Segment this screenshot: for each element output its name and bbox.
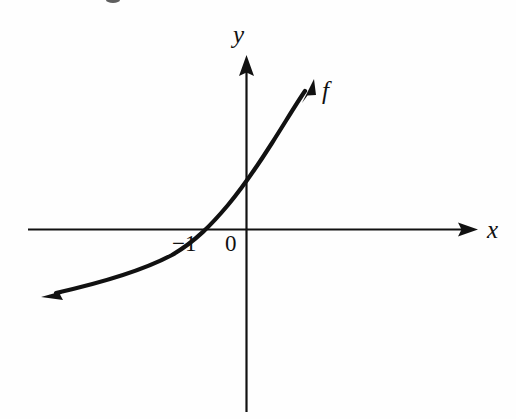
tick-label-origin: 0 (225, 232, 237, 255)
graph-canvas (0, 0, 516, 419)
tick-label-negative-one: −1 (172, 232, 196, 255)
graph-figure: y x f −1 0 (0, 0, 516, 419)
function-name-label: f (322, 78, 329, 103)
y-axis (239, 55, 254, 412)
curve-left-arrowhead-icon (41, 290, 66, 300)
curve-path (56, 91, 305, 293)
x-axis (28, 223, 478, 237)
y-axis-label: y (233, 22, 244, 47)
x-axis-label: x (487, 217, 498, 242)
function-curve (41, 79, 316, 300)
